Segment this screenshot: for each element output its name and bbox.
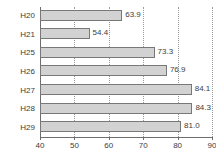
bar (40, 10, 122, 21)
category-label-h26: H26 (1, 66, 35, 78)
category-label-h20: H20 (1, 10, 35, 22)
bar-value-label: 76.9 (170, 64, 186, 76)
plot-area: 63.954.473.376.984.184.381.0 (40, 7, 212, 137)
bar-row: 81.0 (40, 118, 212, 137)
category-label-h27: H27 (1, 85, 35, 97)
x-tick-label: 80 (166, 140, 190, 151)
bar-row: 54.4 (40, 26, 212, 45)
category-label-h28: H28 (1, 103, 35, 115)
x-tick-label: 90 (200, 140, 216, 151)
bar-row: 73.3 (40, 44, 212, 63)
bar-value-label: 54.4 (93, 27, 109, 39)
bar-chart: 63.954.473.376.984.184.381.0 H20H21H25H2… (0, 0, 216, 155)
bar-row: 84.1 (40, 81, 212, 100)
gridline (212, 7, 213, 137)
x-axis-line (40, 137, 212, 138)
x-tick-label: 70 (131, 140, 155, 151)
category-label-h29: H29 (1, 122, 35, 134)
category-label-h25: H25 (1, 47, 35, 59)
bar (40, 65, 167, 76)
x-tick-label: 50 (62, 140, 86, 151)
x-tick-label: 60 (97, 140, 121, 151)
bar-row: 63.9 (40, 7, 212, 26)
bar-row: 76.9 (40, 63, 212, 82)
bar-value-label: 63.9 (125, 9, 141, 21)
bar-value-label: 73.3 (158, 46, 174, 58)
bar-value-label: 84.1 (195, 83, 211, 95)
bar (40, 84, 192, 95)
bar-row: 84.3 (40, 100, 212, 119)
bar (40, 28, 90, 39)
bar-value-label: 81.0 (184, 120, 200, 132)
bar (40, 121, 181, 132)
category-label-h21: H21 (1, 29, 35, 41)
bar (40, 47, 155, 58)
bar-value-label: 84.3 (195, 102, 211, 114)
x-tick-label: 40 (28, 140, 52, 151)
bar (40, 103, 192, 114)
